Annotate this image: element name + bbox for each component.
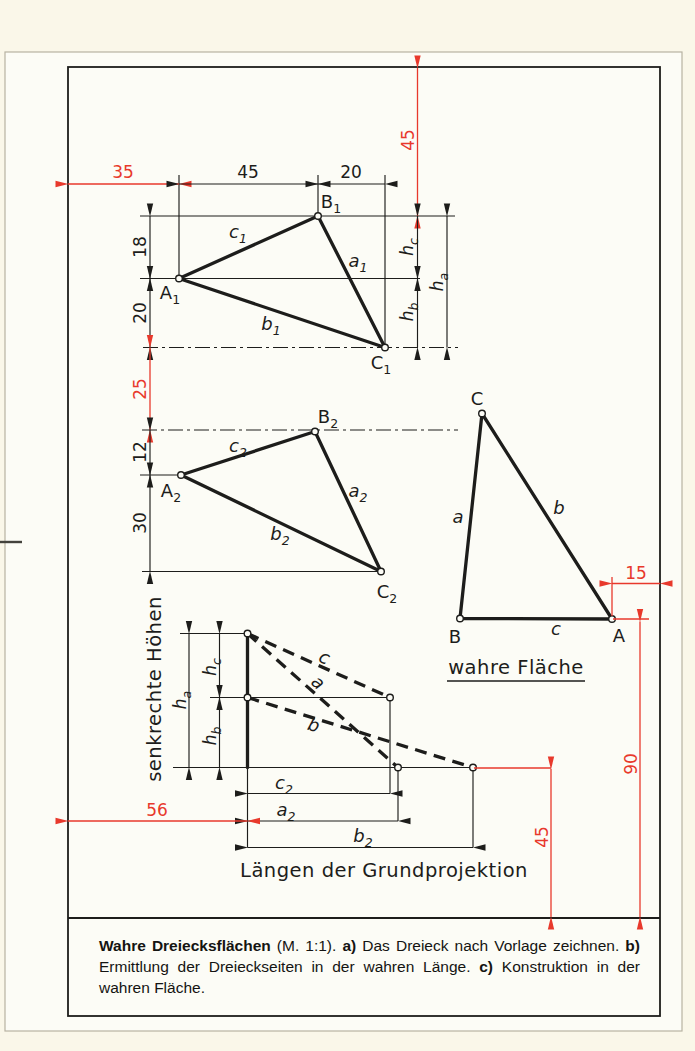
a-end-point — [395, 764, 402, 771]
vertex-c-point — [479, 410, 486, 417]
vertex-c1-point — [382, 344, 389, 351]
dim-45-horizontal: 45 — [237, 162, 259, 182]
vertex-a-label: A — [613, 625, 626, 646]
caption-label-a: a) — [342, 937, 356, 954]
vertex-c2-point — [378, 568, 385, 575]
vertex-b-label: B — [449, 626, 461, 647]
base-title: Längen der Grundprojektion — [240, 859, 528, 882]
vertex-c-label: C — [471, 388, 484, 409]
dim-25: 25 — [130, 378, 150, 400]
side-b-label: b — [553, 497, 564, 518]
dim-18: 18 — [130, 236, 150, 258]
caption-text-b: Ermittlung der Dreieckseiten in der wahr… — [99, 958, 479, 975]
axis-title: senkrechte Höhen — [143, 596, 166, 782]
axis-mid-point — [244, 694, 251, 701]
caption-scale: (M. 1:1). — [271, 937, 343, 954]
dim-15: 15 — [625, 563, 647, 583]
dim-20-vertical: 20 — [130, 302, 150, 324]
caption: Wahre Dreiecksflächen (M. 1:1). a) Das D… — [99, 936, 640, 998]
vertex-b1-point — [315, 213, 322, 220]
caption-label-c: c) — [479, 958, 493, 975]
side-a-label: a — [452, 506, 463, 527]
vertex-b-point — [457, 615, 464, 622]
side-c-label: c — [551, 618, 561, 639]
true-area-title: wahre Fläche — [448, 656, 584, 679]
technical-drawing: 35 45 20 45 18 20 25 hc hb ha B1 A1 C1 c… — [0, 0, 695, 1051]
dim-56: 56 — [146, 800, 168, 820]
caption-text-a: Das Dreieck nach Vorlage zeichnen. — [356, 937, 625, 954]
c-end-point — [387, 694, 394, 701]
caption-label-b: b) — [625, 937, 640, 954]
axis-top-point — [244, 630, 251, 637]
dim-45-offset-top: 45 — [398, 129, 418, 151]
dim-30: 30 — [130, 512, 150, 534]
dim-12: 12 — [130, 441, 150, 463]
dim-35: 35 — [112, 162, 134, 182]
vertex-a1-point — [176, 275, 183, 282]
dim-90: 90 — [621, 753, 641, 775]
vertex-a2-point — [178, 472, 185, 479]
dim-20-horizontal: 20 — [340, 162, 362, 182]
page-border — [5, 52, 682, 1031]
dim-45-bottom: 45 — [532, 826, 552, 848]
caption-title: Wahre Dreiecksflächen — [99, 937, 271, 954]
vertex-b2-point — [312, 428, 319, 435]
